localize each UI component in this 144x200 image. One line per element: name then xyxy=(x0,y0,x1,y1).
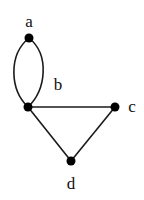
edges xyxy=(14,38,115,161)
graph-diagram: a b c d xyxy=(0,0,144,200)
label-d: d xyxy=(67,174,76,193)
edge-a-b-right xyxy=(28,38,43,107)
edge-b-d xyxy=(28,107,71,161)
edge-c-d xyxy=(71,107,115,161)
nodes xyxy=(24,34,120,166)
node-c xyxy=(111,103,120,112)
node-b xyxy=(24,103,33,112)
label-a: a xyxy=(25,12,33,31)
labels: a b c d xyxy=(25,12,136,193)
label-c: c xyxy=(128,97,136,116)
label-b: b xyxy=(54,75,63,94)
node-d xyxy=(67,157,76,166)
node-a xyxy=(25,34,34,43)
edge-a-b-left xyxy=(14,38,29,107)
